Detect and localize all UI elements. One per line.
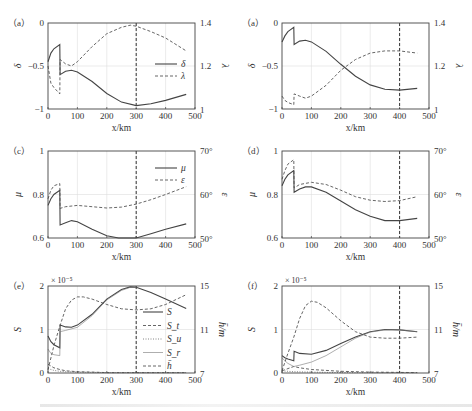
series--line [282, 27, 417, 90]
x-tick-label: 300 [129, 375, 143, 385]
figure-caption [40, 404, 472, 407]
y-right-tick-label: 50° [434, 234, 447, 244]
x-tick-label: 400 [159, 240, 173, 250]
y-left-axis-label: δ [246, 63, 257, 68]
y-left-tick-label: 1 [274, 325, 279, 335]
x-tick-label: 300 [363, 240, 377, 250]
y-left-tick-label: −1 [268, 104, 278, 114]
y-right-axis-label: λ [454, 63, 465, 69]
y-right-tick-label: 1.4 [434, 18, 446, 28]
y-right-tick-label: 15 [200, 281, 210, 291]
legend-label: δ [181, 59, 186, 69]
y-right-tick-label: 11 [434, 325, 443, 335]
x-tick-label: 300 [363, 375, 377, 385]
x-tick-label: 200 [100, 375, 114, 385]
x-tick-label: 300 [129, 240, 143, 250]
y-left-tick-label: 0 [40, 368, 45, 378]
y-left-axis-label: δ [12, 63, 23, 68]
panel-label: （a） [8, 18, 30, 28]
x-tick-label: 100 [71, 240, 85, 250]
x-axis-label: x/km [112, 252, 132, 262]
x-tick-label: 100 [305, 111, 319, 121]
x-tick-label: 0 [280, 240, 285, 250]
figure-canvas: 0100200300400500x/km−1−0.5011.21.4δλ（a）δ… [0, 0, 472, 411]
y-right-tick-label: 50° [200, 234, 213, 244]
x-tick-label: 0 [280, 111, 285, 121]
y-right-axis-label: λ [220, 63, 231, 69]
x-axis-label: x/km [112, 387, 132, 397]
panel-label: （d） [242, 146, 265, 156]
legend-label: ε [181, 175, 185, 185]
y-left-tick-label: 0 [274, 18, 279, 28]
panel-label: （e） [8, 281, 30, 291]
x-tick-label: 300 [129, 111, 143, 121]
y-left-tick-label: 0.8 [33, 190, 45, 200]
panel-label: （a） [242, 18, 264, 28]
x-tick-label: 100 [71, 111, 85, 121]
y-left-tick-label: −0.5 [28, 61, 45, 71]
y-left-tick-label: −0.5 [262, 61, 279, 71]
y-right-tick-label: 15 [434, 281, 444, 291]
x-tick-label: 0 [280, 375, 285, 385]
x-tick-label: 100 [305, 375, 319, 385]
y-left-tick-label: 2 [274, 281, 279, 291]
y-left-axis-label: S [12, 327, 23, 332]
y-right-axis-label: ε [454, 193, 465, 197]
y-right-tick-label: 70° [434, 146, 447, 156]
series-h-line [282, 301, 417, 371]
x-tick-label: 400 [393, 240, 407, 250]
y-right-axis-label: h̄/m [451, 322, 462, 337]
legend-label: S_u [167, 334, 182, 344]
y-left-tick-label: −1 [34, 104, 44, 114]
legend-label: S_r [167, 348, 181, 358]
x-axis-label: x/km [346, 252, 366, 262]
y-right-tick-label: 1.4 [200, 18, 212, 28]
series--line [282, 171, 417, 221]
series--line [282, 160, 417, 202]
x-tick-label: 200 [334, 111, 348, 121]
y-right-tick-label: 60° [200, 190, 213, 200]
y-right-tick-label: 1.2 [200, 61, 211, 71]
x-axis-label: x/km [112, 123, 132, 133]
x-tick-label: 200 [100, 240, 114, 250]
y-left-axis-label: μ [12, 192, 23, 198]
y-right-tick-label: 7 [200, 369, 205, 379]
y-left-tick-label: 0 [274, 368, 279, 378]
x-tick-label: 100 [305, 240, 319, 250]
y-right-axis-label: h̄/m [217, 322, 228, 337]
y-right-tick-label: 1 [434, 105, 439, 115]
y-right-tick-label: 7 [434, 369, 439, 379]
y-left-axis-label: S [246, 327, 257, 332]
y-left-axis-label: μ [246, 192, 257, 198]
x-axis-label: x/km [346, 123, 366, 133]
x-tick-label: 0 [46, 375, 51, 385]
y-left-tick-label: 0.8 [267, 190, 279, 200]
y-left-tick-label: 2 [40, 281, 45, 291]
y-right-axis-label: ε [220, 193, 231, 197]
legend-label: S_t [167, 321, 180, 331]
y-left-tick-label: 0.6 [33, 233, 45, 243]
x-tick-label: 200 [334, 375, 348, 385]
legend-label: μ [180, 163, 186, 173]
legend-label: S [167, 307, 172, 317]
x-tick-label: 0 [46, 240, 51, 250]
panel-label: （f） [242, 281, 263, 291]
y-right-tick-label: 70° [200, 146, 213, 156]
y-multiplier-label: × 10⁻⁵ [285, 276, 307, 285]
x-tick-label: 400 [393, 375, 407, 385]
y-left-tick-label: 1 [40, 146, 45, 156]
x-tick-label: 100 [71, 375, 85, 385]
y-left-tick-label: 1 [40, 325, 45, 335]
x-tick-label: 0 [46, 111, 51, 121]
series-S-line [282, 330, 417, 361]
y-left-tick-label: 1 [274, 146, 279, 156]
y-multiplier-label: × 10⁻⁵ [51, 276, 73, 285]
x-tick-label: 200 [334, 240, 348, 250]
x-tick-label: 200 [100, 111, 114, 121]
x-tick-label: 400 [393, 111, 407, 121]
legend-label: h̄ [167, 360, 172, 371]
series--line [282, 51, 417, 105]
x-tick-label: 400 [159, 111, 173, 121]
series-Sr-line [282, 330, 417, 367]
legend-label: λ [180, 71, 185, 81]
